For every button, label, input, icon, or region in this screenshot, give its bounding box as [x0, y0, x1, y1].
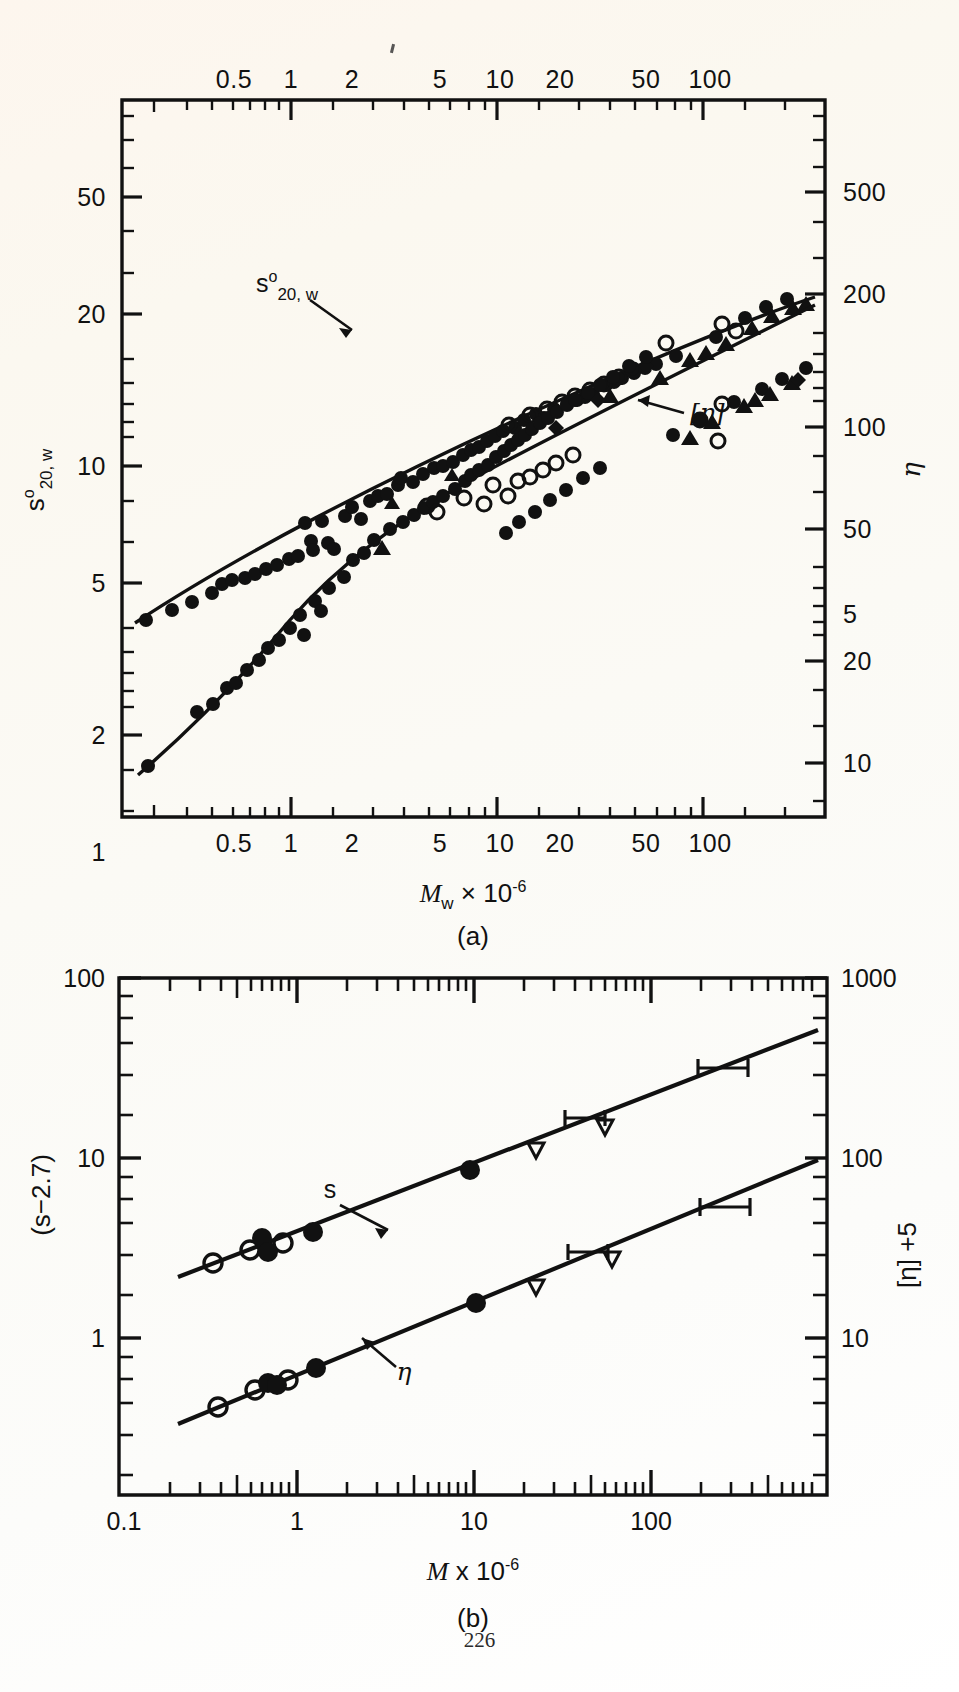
panel-a-ylabel-right: η — [896, 462, 926, 478]
tick-label: 200 — [843, 280, 886, 308]
panel-b-xlabel: M x 10-6 — [426, 1556, 519, 1586]
panel-a-ylabel-left: so20, w — [20, 448, 56, 511]
panel-a-series-s20w — [135, 292, 815, 627]
tick-label: 10 — [460, 1507, 488, 1535]
svg-text:so20, w: so20, w — [256, 268, 319, 304]
tick-label: 20 — [77, 300, 106, 328]
panel-a-right-ticks — [805, 116, 825, 801]
panel-b-right-ticks — [805, 978, 827, 1475]
tick-label: 50 — [632, 65, 661, 93]
tick-label: 1 — [92, 838, 106, 866]
panel-a-top-ticks — [154, 100, 785, 120]
fit-line-eta — [138, 305, 815, 775]
ylabel-main: s — [20, 498, 50, 511]
panel-b-series-eta — [178, 1160, 818, 1424]
panel-a-xlabel: Mw × 10-6 — [419, 878, 527, 913]
panel-b-ylabel-right: [η] +5 — [892, 1222, 922, 1288]
tick-label: 5 — [433, 829, 447, 857]
tick-label: 5 — [433, 65, 447, 93]
panel-a-bottom-ticklabels: 0.5 1 2 5 10 20 50 100 — [216, 829, 732, 857]
ylabel-sup: o — [20, 489, 37, 498]
tick-label: 10 — [486, 829, 515, 857]
tick-label: 2 — [92, 721, 106, 749]
svg-text:[η] +5: [η] +5 — [892, 1222, 922, 1288]
svg-text:M x 10-6: M x 10-6 — [426, 1556, 519, 1586]
tick-label: 20 — [843, 647, 872, 675]
panel-a-left-ticklabels: 50 20 10 5 2 1 — [77, 183, 106, 866]
panel-a-annotation-eta: [η] — [638, 395, 725, 427]
panel-a-series-eta — [138, 305, 815, 775]
panel-b-left-ticks — [119, 978, 141, 1475]
tick-label: 2 — [345, 829, 359, 857]
panel-a-caption: (a) — [457, 921, 489, 951]
tick-label: 2 — [345, 65, 359, 93]
ylabel-sub: 20, w — [37, 448, 56, 489]
panel-b-series-s — [178, 1030, 818, 1277]
tick-label: 1 — [290, 1507, 304, 1535]
tick-label: 10 — [77, 452, 106, 480]
tick-label: 20 — [546, 829, 575, 857]
svg-text:(s−2.7): (s−2.7) — [26, 1154, 56, 1236]
panel-b-right-ticklabels: 1000 100 10 — [841, 964, 897, 1352]
tick-label: 100 — [688, 829, 731, 857]
panel-b-frame — [119, 978, 827, 1495]
tick-label: 1 — [284, 829, 298, 857]
tick-label: 1 — [91, 1324, 105, 1352]
panel-a-annotation-s20w: so20, w — [256, 268, 352, 338]
tick-label: 0.5 — [216, 829, 252, 857]
tick-label: 10 — [843, 749, 872, 777]
panel-b-top-ticks — [170, 978, 812, 1003]
panel-b-left-ticklabels: 100 10 1 — [63, 964, 105, 1352]
panel-a-chart: 0.5 1 2 5 10 20 50 100 — [0, 0, 959, 950]
tick-label: 100 — [843, 413, 886, 441]
panel-a-left-ticks — [122, 116, 142, 811]
panel-a-top-ticklabels: 0.5 1 2 5 10 20 50 100 — [216, 65, 732, 93]
tick-label: 5 — [92, 569, 106, 597]
tick-label: 10 — [77, 1144, 105, 1172]
page-number: 226 — [0, 1628, 959, 1653]
tick-label: 50 — [843, 515, 872, 543]
tick-label: 10 — [841, 1324, 869, 1352]
panel-b-bottom-ticklabels: 0.1 1 10 100 — [107, 1507, 672, 1535]
panel-b-annotation-eta: η — [362, 1338, 412, 1386]
tick-label: 1 — [284, 65, 298, 93]
errorbar-eta — [568, 1198, 750, 1260]
svg-text:so20, w: so20, w — [20, 448, 56, 511]
tick-label: 20 — [546, 65, 575, 93]
tick-label: 1000 — [841, 964, 897, 992]
tick-label: 50 — [77, 183, 106, 211]
figure-page: 0.5 1 2 5 10 20 50 100 — [0, 0, 959, 1692]
tick-label: 100 — [841, 1144, 883, 1172]
tick-label: 5 — [843, 600, 857, 628]
panel-a-right-ticklabels-low: 5 — [843, 600, 857, 628]
panel-a-right-ticklabels: 500 200 100 50 20 10 — [843, 178, 886, 777]
tick-label: 0.1 — [107, 1507, 142, 1535]
panel-b-chart: 0.1 1 10 100 — [0, 955, 959, 1665]
svg-text:[η]: [η] — [690, 398, 725, 427]
panel-a-frame — [122, 100, 825, 817]
panel-b-bottom-ticks — [170, 1470, 812, 1495]
svg-text:η: η — [896, 462, 926, 478]
tick-label: 100 — [63, 964, 105, 992]
tick-label: 0.5 — [216, 65, 252, 93]
tick-label: 100 — [630, 1507, 672, 1535]
svg-text:Mw × 10-6: Mw × 10-6 — [419, 878, 527, 913]
tick-label: 100 — [688, 65, 731, 93]
tick-label: 50 — [632, 829, 661, 857]
markers-eta-diamond — [548, 372, 806, 436]
markers-eta-open — [430, 397, 729, 519]
svg-text:s: s — [324, 1175, 337, 1203]
tick-label: 500 — [843, 178, 886, 206]
panel-b-ylabel-left: (s−2.7) — [26, 1154, 56, 1236]
tick-label: 10 — [486, 65, 515, 93]
svg-text:η: η — [397, 1357, 412, 1386]
fit-line-s20w — [135, 297, 815, 623]
panel-a-bottom-ticks — [154, 797, 785, 817]
